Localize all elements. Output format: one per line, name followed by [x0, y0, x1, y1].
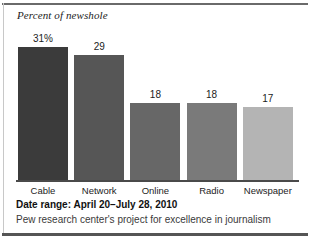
category-label-cable: Cable [12, 185, 74, 196]
category-label-radio: Radio [181, 185, 243, 196]
category-label-online: Online [124, 185, 186, 196]
bar-online [130, 103, 180, 180]
bar-value-radio: 18 [187, 89, 237, 100]
category-label-newspaper: Newspaper [237, 185, 299, 196]
category-label-network: Network [68, 185, 130, 196]
bar-cable [18, 47, 68, 180]
footer-source: Pew research center's project for excell… [16, 214, 271, 225]
bar-network [74, 55, 124, 180]
bar-value-cable: 31% [18, 33, 68, 44]
chart-title: Percent of newshole [17, 9, 108, 21]
bar-newspaper [243, 107, 293, 180]
bar-value-newspaper: 17 [243, 93, 293, 104]
bar-value-network: 29 [74, 41, 124, 52]
footer-date-range: Date range: April 20–July 28, 2010 [16, 199, 177, 210]
bar-radio [187, 103, 237, 180]
chart-figure: Percent of newshole 31%29181817 CableNet… [0, 0, 310, 241]
x-axis-line [16, 180, 299, 182]
bar-value-online: 18 [130, 89, 180, 100]
